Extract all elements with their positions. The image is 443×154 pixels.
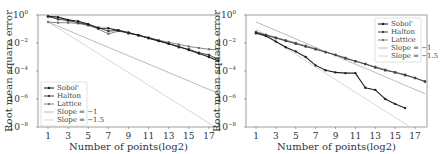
data-point-marker xyxy=(374,89,376,91)
data-point-marker xyxy=(384,98,386,100)
y-tick-exponent: 0 xyxy=(233,9,237,15)
y-tick-base: 10 xyxy=(13,10,25,20)
data-point-marker xyxy=(117,29,119,31)
data-point-marker xyxy=(394,71,396,73)
data-point-marker xyxy=(384,69,386,71)
data-point-marker xyxy=(354,72,356,74)
data-point-marker xyxy=(285,40,287,42)
data-point-marker xyxy=(147,37,149,39)
legend-marker xyxy=(382,39,384,41)
legend-label: Halton xyxy=(391,28,416,36)
x-tick-label: 11 xyxy=(350,131,361,141)
data-point-marker xyxy=(168,43,170,45)
data-point-marker xyxy=(77,20,79,22)
data-point-marker xyxy=(107,30,109,32)
x-tick-label: 5 xyxy=(85,131,91,141)
data-point-marker xyxy=(334,71,336,73)
data-point-marker xyxy=(47,21,49,23)
data-point-marker xyxy=(137,34,139,36)
data-point-marker xyxy=(314,48,316,50)
y-tick-label: 100 xyxy=(221,9,236,20)
y-tick-exponent: −6 xyxy=(20,93,29,99)
data-point-marker xyxy=(295,43,297,45)
data-point-marker xyxy=(67,19,69,21)
data-point-marker xyxy=(404,74,406,76)
legend-marker xyxy=(382,23,384,25)
data-point-marker xyxy=(364,87,366,89)
legend-label: Slope = −1.5 xyxy=(57,116,104,124)
x-tick-label: 17 xyxy=(409,131,421,141)
data-point-marker xyxy=(107,27,109,29)
data-point-marker xyxy=(57,16,59,18)
data-point-marker xyxy=(314,64,316,66)
x-tick-label: 3 xyxy=(65,131,71,141)
legend-label: Sobol' xyxy=(391,20,413,28)
data-point-marker xyxy=(324,51,326,53)
data-point-marker xyxy=(97,27,99,29)
data-point-marker xyxy=(285,46,287,48)
legend-marker xyxy=(48,87,50,89)
x-tick-label: 9 xyxy=(333,131,339,141)
data-point-marker xyxy=(178,43,180,45)
data-point-marker xyxy=(424,80,426,82)
data-point-marker xyxy=(354,60,356,62)
y-tick-label: 100 xyxy=(13,9,28,20)
data-point-marker xyxy=(344,72,346,74)
data-point-marker xyxy=(324,69,326,71)
data-point-marker xyxy=(208,54,210,56)
data-point-marker xyxy=(414,77,416,79)
data-point-marker xyxy=(404,107,406,109)
data-point-marker xyxy=(364,63,366,65)
x-tick-label: 11 xyxy=(143,131,154,141)
data-point-marker xyxy=(295,50,297,52)
legend-label: Lattice xyxy=(391,36,416,44)
data-point-marker xyxy=(157,40,159,42)
legend-label: Slope = −1 xyxy=(57,108,98,116)
data-point-marker xyxy=(305,56,307,58)
x-tick-label: 3 xyxy=(273,131,279,141)
legend-marker xyxy=(382,31,384,33)
data-point-marker xyxy=(178,45,180,47)
data-point-marker xyxy=(57,18,59,20)
x-tick-label: 7 xyxy=(313,131,319,141)
legend: Sobol'HaltonLatticeSlope = −1Slope = −1.… xyxy=(41,82,104,126)
data-point-marker xyxy=(208,48,210,50)
right-chart: 10010−210−410−610−81357911131517Number o… xyxy=(211,9,438,152)
data-point-marker xyxy=(188,45,190,47)
legend: Sobol'HaltonLatticeSlope = −1Slope = −1.… xyxy=(375,18,438,62)
data-point-marker xyxy=(275,40,277,42)
y-tick-exponent: −4 xyxy=(228,65,237,71)
data-point-marker xyxy=(344,57,346,59)
data-point-marker xyxy=(107,33,109,35)
legend-label: Slope = −1 xyxy=(391,44,432,52)
data-point-marker xyxy=(394,103,396,105)
data-point-marker xyxy=(198,47,200,49)
x-tick-label: 7 xyxy=(105,131,111,141)
y-tick-exponent: −2 xyxy=(20,37,28,43)
x-axis-label: Number of points(log2) xyxy=(277,141,396,152)
data-point-marker xyxy=(275,37,277,39)
data-point-marker xyxy=(87,23,89,25)
y-axis-label: Root mean square error xyxy=(3,10,14,132)
data-point-marker xyxy=(47,15,49,17)
data-point-marker xyxy=(208,56,210,58)
legend-label: Slope = −1.5 xyxy=(391,52,438,60)
data-point-marker xyxy=(374,66,376,68)
y-tick-exponent: −2 xyxy=(228,37,236,43)
x-tick-label: 9 xyxy=(126,131,132,141)
data-point-marker xyxy=(188,49,190,51)
x-tick-label: 13 xyxy=(370,131,382,141)
y-tick-exponent: −8 xyxy=(20,121,29,127)
legend-label: Sobol' xyxy=(57,84,79,92)
data-point-marker xyxy=(67,22,69,24)
data-point-marker xyxy=(305,45,307,47)
y-tick-exponent: −4 xyxy=(20,65,29,71)
legend-marker xyxy=(48,95,50,97)
data-point-marker xyxy=(255,32,257,34)
left-chart: 10010−210−410−610−81357911131517Number o… xyxy=(3,9,220,152)
data-point-marker xyxy=(265,35,267,37)
y-tick-base: 10 xyxy=(221,10,233,20)
x-tick-label: 1 xyxy=(253,131,259,141)
y-tick-exponent: −6 xyxy=(228,93,237,99)
data-point-marker xyxy=(198,52,200,54)
